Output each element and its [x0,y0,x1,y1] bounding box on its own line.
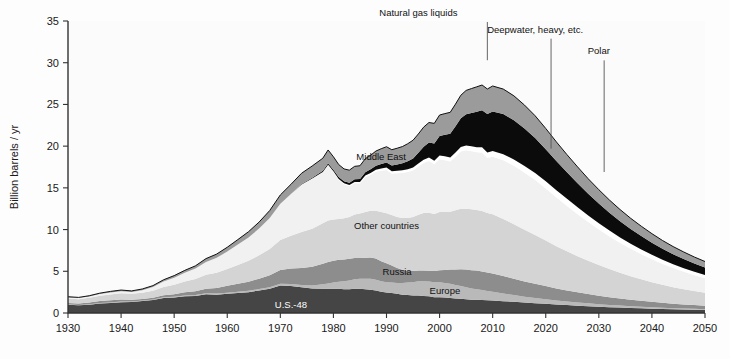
x-tick-label: 1940 [109,322,133,334]
callout-label-deepwater-heavy: Deepwater, heavy, etc. [487,24,583,35]
callout-label-natural-gas-liquids: Natural gas liquids [379,7,457,18]
y-tick-label: 35 [47,15,59,27]
layer-label-middle-east: Middle East [356,151,406,162]
y-tick-label: 0 [53,307,59,319]
x-tick-label: 2020 [534,322,558,334]
figure-root: 0510152025303519301940195019601970198019… [0,0,730,359]
x-tick-label: 1980 [321,322,345,334]
x-tick-label: 2030 [587,322,611,334]
y-axis-title: Billion barrels / yr [8,124,20,209]
x-tick-label: 1950 [162,322,186,334]
layer-label-russia: Russia [383,266,413,277]
y-tick-label: 20 [47,140,59,152]
x-tick-label: 1970 [268,322,292,334]
y-tick-label: 5 [53,265,59,277]
x-tick-label: 1930 [56,322,80,334]
x-tick-label: 1960 [215,322,239,334]
y-tick-label: 25 [47,98,59,110]
x-tick-label: 2010 [480,322,504,334]
figure-caption [8,347,722,359]
layer-label-us-48: U.S.-48 [275,299,307,310]
x-tick-label: 1990 [374,322,398,334]
y-tick-label: 30 [47,57,59,69]
layer-label-europe: Europe [430,285,461,296]
y-tick-label: 15 [47,182,59,194]
x-tick-label: 2050 [693,322,717,334]
x-tick-label: 2000 [427,322,451,334]
y-tick-label: 10 [47,224,59,236]
stacked-area-chart: 0510152025303519301940195019601970198019… [0,0,730,346]
layer-label-other-countries: Other countries [354,220,419,231]
x-tick-label: 2040 [640,322,664,334]
callout-label-polar: Polar [588,45,610,56]
